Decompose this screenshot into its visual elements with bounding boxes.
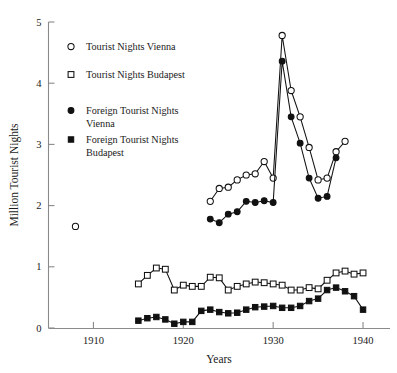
data-point (333, 155, 339, 161)
data-point (315, 195, 321, 201)
data-point (216, 275, 222, 281)
data-point (279, 58, 285, 64)
data-point (306, 175, 312, 181)
legend-label: Foreign Tourist Nights (86, 134, 179, 145)
data-point (163, 317, 168, 322)
data-point (315, 296, 320, 301)
data-point (288, 87, 294, 93)
data-point (324, 194, 330, 200)
x-axis-title: Years (206, 353, 232, 365)
data-point (207, 216, 213, 222)
data-point (235, 310, 240, 315)
series-3 (136, 285, 366, 327)
data-point (324, 175, 330, 181)
data-point (217, 309, 222, 314)
data-point (252, 279, 258, 285)
legend-marker-filled-square-icon (68, 137, 73, 142)
data-point (360, 270, 366, 276)
data-point (333, 285, 338, 290)
data-point (234, 283, 240, 289)
data-point (261, 304, 266, 309)
data-point (261, 198, 267, 204)
data-point (270, 303, 275, 308)
y-tick-label: 4 (36, 78, 42, 89)
data-point (342, 138, 348, 144)
data-point (243, 198, 249, 204)
data-point (324, 287, 329, 292)
legend-label: Tourist Nights Budapest (86, 69, 185, 80)
data-point (207, 198, 213, 204)
data-point (279, 282, 285, 288)
series-0 (72, 32, 348, 229)
data-point (145, 316, 150, 321)
data-point (252, 304, 257, 309)
data-point (226, 311, 231, 316)
y-tick-label: 1 (36, 261, 41, 272)
data-point (189, 283, 195, 289)
legend-label-line2: Budapest (86, 147, 124, 158)
data-point (243, 281, 249, 287)
data-point (306, 144, 312, 150)
data-point (153, 265, 159, 271)
chart-legend: Tourist Nights ViennaTourist Nights Buda… (68, 41, 185, 158)
tourist-nights-line-chart: 012345 1910192019301940 Million Tourist … (0, 0, 397, 373)
data-point (144, 272, 150, 278)
x-tick-label: 1930 (263, 335, 284, 346)
data-point (207, 274, 213, 280)
x-axis-ticks: 1910192019301940 (83, 322, 374, 346)
data-point (279, 305, 284, 310)
data-point (351, 293, 356, 298)
axes (49, 22, 391, 329)
data-point (306, 298, 311, 303)
data-point (181, 319, 186, 324)
data-point (135, 281, 141, 287)
data-point (333, 149, 339, 155)
y-tick-label: 3 (36, 139, 41, 150)
data-point (154, 314, 159, 319)
data-point (261, 158, 267, 164)
legend-label: Tourist Nights Vienna (86, 41, 176, 52)
data-point (333, 270, 339, 276)
data-point (225, 287, 231, 293)
y-tick-label: 5 (36, 17, 41, 28)
data-point (297, 114, 303, 120)
data-point (306, 285, 312, 291)
data-point (270, 200, 276, 206)
y-tick-label: 0 (36, 323, 41, 334)
legend-marker-open-circle-icon (68, 43, 74, 49)
data-point (279, 32, 285, 38)
data-point (225, 211, 231, 217)
data-point (243, 172, 249, 178)
data-point (190, 319, 195, 324)
data-point (180, 282, 186, 288)
data-point (315, 177, 321, 183)
data-point (252, 171, 258, 177)
data-point (198, 283, 204, 289)
legend-marker-open-square-icon (68, 72, 74, 78)
legend-label: Foreign Tourist Nights (86, 105, 179, 116)
data-point (297, 140, 303, 146)
y-axis-title: Million Tourist Nights (8, 123, 21, 227)
data-point (315, 286, 321, 292)
data-point (208, 307, 213, 312)
data-point (136, 318, 141, 323)
data-point (225, 184, 231, 190)
chart-container: 012345 1910192019301940 Million Tourist … (0, 0, 397, 373)
data-point (288, 114, 294, 120)
series-2 (207, 58, 339, 225)
data-point (172, 321, 177, 326)
data-point (270, 281, 276, 287)
data-point (234, 177, 240, 183)
data-point (351, 271, 357, 277)
data-point (360, 307, 365, 312)
y-tick-label: 2 (36, 200, 41, 211)
legend-label-line2: Vienna (86, 118, 115, 129)
data-point (244, 307, 249, 312)
data-point (288, 305, 293, 310)
data-point (288, 287, 294, 293)
data-point (171, 287, 177, 293)
x-tick-label: 1940 (353, 335, 374, 346)
data-point (234, 209, 240, 215)
y-axis-ticks: 012345 (36, 17, 54, 334)
data-point (261, 280, 267, 286)
